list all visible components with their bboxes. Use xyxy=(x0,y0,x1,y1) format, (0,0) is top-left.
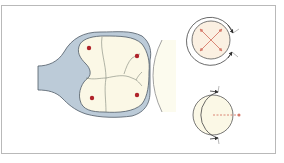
nucleus-top-left xyxy=(87,46,91,50)
arc-arrowhead-top-icon xyxy=(210,91,218,92)
nucleus-bottom-right xyxy=(135,93,139,97)
direction-endpoint-dot xyxy=(238,114,241,117)
arc-arrowhead-bottom-icon xyxy=(228,52,232,58)
directional-diagram xyxy=(193,86,241,144)
diagram-canvas xyxy=(0,0,284,163)
nucleus-bottom-left xyxy=(90,96,94,100)
radial-expansion-diagram xyxy=(186,17,239,65)
arc-arrowhead-bottom-icon xyxy=(210,138,218,139)
nucleus-top-right xyxy=(135,54,139,58)
arc-arrowhead-top-icon xyxy=(228,25,233,33)
adjacent-surface xyxy=(153,40,176,112)
